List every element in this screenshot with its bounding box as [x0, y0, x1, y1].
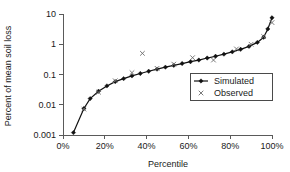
x-axis-title: Percentile [148, 159, 188, 169]
y-tick-label: 0.001 [33, 130, 56, 140]
data-point-marker [190, 55, 195, 60]
data-point-marker [197, 58, 201, 62]
data-point-marker [180, 61, 184, 65]
y-tick-label: 1 [51, 39, 56, 49]
data-point-marker [238, 47, 242, 51]
legend-label: Simulated [214, 76, 254, 86]
x-tick-group: 0%20%40%60%80%100% [56, 135, 283, 151]
chart-figure: 0.0010.010.1110 0%20%40%60%80%100% Simul… [0, 0, 290, 172]
data-point-marker [230, 50, 234, 54]
data-point-marker [146, 69, 150, 73]
y-tick-label: 0.1 [43, 70, 56, 80]
data-point-marker [163, 65, 167, 69]
data-point-marker [140, 51, 145, 56]
chart-legend: SimulatedObserved [190, 73, 272, 100]
x-axis-group: 0%20%40%60%80%100% [56, 135, 283, 151]
data-point-marker [138, 71, 142, 75]
data-point-marker [113, 79, 117, 83]
y-tick-label: 0.01 [38, 100, 56, 110]
y-tick-label: 10 [46, 9, 56, 19]
data-point-marker [155, 67, 159, 71]
x-tick-label: 40% [138, 141, 156, 151]
x-tick-label: 100% [260, 141, 283, 151]
x-tick-label: 20% [96, 141, 114, 151]
x-tick-label: 0% [56, 141, 69, 151]
x-tick-label: 80% [221, 141, 239, 151]
y-tick-group: 0.0010.010.1110 [33, 9, 63, 140]
y-axis-title: Percent of mean soil loss [3, 25, 13, 126]
data-point-marker [222, 52, 226, 56]
legend-label: Observed [214, 88, 253, 98]
data-point-marker [211, 58, 216, 63]
data-point-marker [270, 16, 274, 20]
data-point-marker [121, 76, 125, 80]
x-tick-label: 60% [179, 141, 197, 151]
data-point-marker [71, 130, 75, 134]
data-point-marker [266, 27, 270, 31]
chart-plot-area: 0.0010.010.1110 0%20%40%60%80%100% Simul… [0, 0, 290, 172]
data-point-marker [205, 56, 209, 60]
y-axis-group: 0.0010.010.1110 [33, 9, 63, 140]
